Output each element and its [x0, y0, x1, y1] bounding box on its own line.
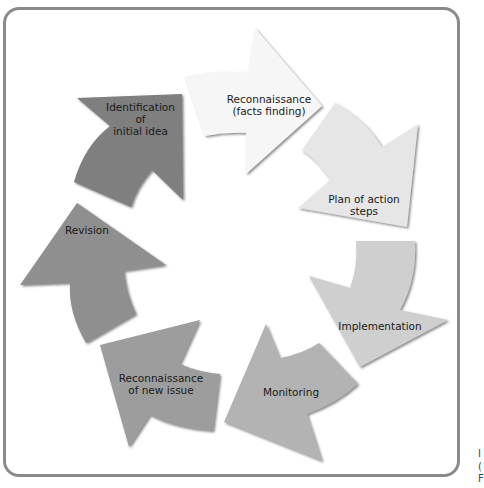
- step-label-reconnaissance-facts: Reconnaissance (facts finding): [224, 93, 314, 117]
- cropped-text-2: (: [478, 462, 484, 472]
- step-label-identification: Identification of initial idea: [98, 101, 183, 137]
- cropped-text-3: F: [478, 474, 484, 484]
- step-label-monitoring: Monitoring: [256, 386, 326, 398]
- arrow-implementation: [309, 241, 448, 367]
- step-label-revision: Revision: [62, 224, 112, 236]
- step-label-plan-of-action: Plan of action steps: [322, 193, 406, 217]
- step-label-implementation: Implementation: [334, 320, 426, 332]
- cycle-arrows: [0, 0, 484, 488]
- step-label-reconnaissance-new-issue: Reconnaissance of new issue: [116, 372, 206, 396]
- cropped-text-1: I: [478, 449, 484, 459]
